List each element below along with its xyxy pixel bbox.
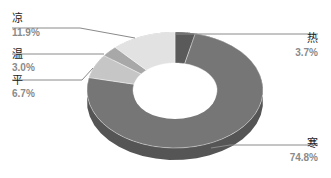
label-name-han: 寒 <box>307 136 318 150</box>
label-pct-re: 3.7% <box>295 47 318 58</box>
donut-hole <box>134 69 216 119</box>
label-pct-wen: 3.0% <box>12 62 35 73</box>
label-pct-liang: 11.9% <box>12 27 40 38</box>
label-name-ping: 平 <box>12 74 23 87</box>
donut-chart: 热 3.7% 寒 74.8% 平 6.7% 温 3.0% 凉 11.9% <box>0 0 331 178</box>
label-name-re: 热 <box>307 32 318 45</box>
donut-slices <box>87 32 263 148</box>
label-name-wen: 温 <box>12 48 23 61</box>
label-pct-ping: 6.7% <box>12 88 35 99</box>
label-name-liang: 凉 <box>12 11 23 25</box>
label-pct-han: 74.8% <box>290 152 318 163</box>
